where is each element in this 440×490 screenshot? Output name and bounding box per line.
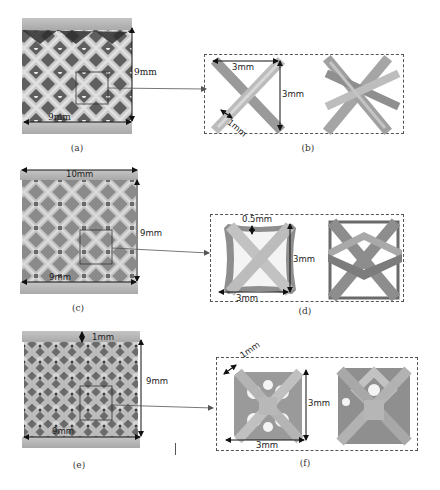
- node-cell-right-f: [338, 368, 410, 444]
- dim-height-f: 3mm: [308, 398, 330, 408]
- dim-width-f: 3mm: [256, 440, 278, 450]
- unit-cell-f-graphic: [0, 0, 440, 490]
- caption-f: (f): [290, 458, 320, 468]
- node-cell-left-f: [234, 372, 302, 440]
